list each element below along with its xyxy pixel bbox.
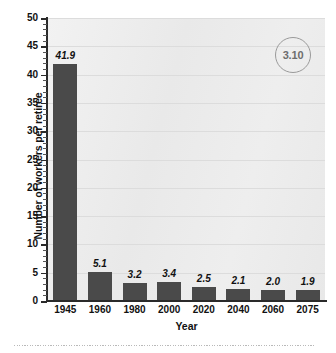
- y-tick-major: [41, 273, 47, 275]
- y-tick-minor: [43, 171, 47, 172]
- gridline: [48, 75, 325, 76]
- status-badge-label: 3.10: [283, 49, 304, 61]
- y-tick-minor: [43, 250, 47, 251]
- y-tick-label: 30: [14, 125, 38, 136]
- y-tick-minor: [43, 29, 47, 30]
- x-tick-label: 2075: [288, 304, 328, 315]
- y-tick-major: [41, 216, 47, 218]
- y-tick-minor: [43, 210, 47, 211]
- bar-value-label: 1.9: [286, 276, 330, 287]
- y-tick-label: 50: [14, 12, 38, 23]
- y-tick-minor: [43, 63, 47, 64]
- y-tick-major: [41, 188, 47, 190]
- y-tick-minor: [43, 137, 47, 138]
- y-tick-label: 25: [14, 154, 38, 165]
- bar: [53, 64, 77, 301]
- y-tick-minor: [43, 278, 47, 279]
- footer-divider: [14, 345, 314, 346]
- y-tick-minor: [43, 24, 47, 25]
- y-tick-minor: [43, 182, 47, 183]
- y-tick-minor: [43, 114, 47, 115]
- x-axis-line: [46, 300, 327, 302]
- y-tick-minor: [43, 120, 47, 121]
- y-tick-minor: [43, 193, 47, 194]
- y-tick-minor: [43, 92, 47, 93]
- y-tick-minor: [43, 261, 47, 262]
- y-tick-major: [41, 18, 47, 20]
- gridline: [48, 160, 325, 161]
- y-tick-minor: [43, 295, 47, 296]
- y-tick-label: 5: [14, 267, 38, 278]
- y-tick-minor: [43, 284, 47, 285]
- y-tick-minor: [43, 256, 47, 257]
- gridline: [48, 188, 325, 189]
- y-tick-label: 0: [14, 295, 38, 306]
- y-tick-minor: [43, 290, 47, 291]
- y-tick-minor: [43, 58, 47, 59]
- y-tick-minor: [43, 227, 47, 228]
- y-tick-label: 20: [14, 182, 38, 193]
- y-tick-label: 40: [14, 69, 38, 80]
- status-badge: 3.10: [275, 37, 311, 73]
- y-tick-minor: [43, 205, 47, 206]
- bar: [88, 272, 112, 301]
- bar: [192, 287, 216, 301]
- y-tick-minor: [43, 148, 47, 149]
- y-tick-minor: [43, 41, 47, 42]
- y-tick-minor: [43, 233, 47, 234]
- y-tick-major: [41, 131, 47, 133]
- gridline: [48, 103, 325, 104]
- y-tick-major: [41, 103, 47, 105]
- y-tick-minor: [43, 165, 47, 166]
- y-tick-minor: [43, 69, 47, 70]
- y-tick-minor: [43, 176, 47, 177]
- y-tick-major: [41, 244, 47, 246]
- y-tick-label: 35: [14, 97, 38, 108]
- gridline: [48, 131, 325, 132]
- y-tick-major: [41, 301, 47, 303]
- bar-value-label: 5.1: [78, 258, 122, 269]
- x-axis-title: Year: [48, 320, 325, 332]
- y-tick-minor: [43, 239, 47, 240]
- y-tick-minor: [43, 143, 47, 144]
- y-tick-minor: [43, 222, 47, 223]
- y-tick-minor: [43, 267, 47, 268]
- bar-value-label: 41.9: [43, 50, 87, 61]
- y-tick-minor: [43, 52, 47, 53]
- gridline: [48, 18, 325, 19]
- y-tick-minor: [43, 154, 47, 155]
- y-tick-label: 10: [14, 238, 38, 249]
- y-tick-major: [41, 46, 47, 48]
- y-tick-label: 45: [14, 40, 38, 51]
- y-tick-major: [41, 75, 47, 77]
- y-tick-minor: [43, 35, 47, 36]
- y-tick-minor: [43, 86, 47, 87]
- bar: [123, 283, 147, 301]
- y-tick-minor: [43, 199, 47, 200]
- gridline: [48, 244, 325, 245]
- y-tick-label: 15: [14, 210, 38, 221]
- y-tick-minor: [43, 126, 47, 127]
- y-tick-minor: [43, 97, 47, 98]
- y-tick-major: [41, 160, 47, 162]
- gridline: [48, 216, 325, 217]
- y-tick-minor: [43, 109, 47, 110]
- chart-figure: Number of workers per retiree 41.95.13.2…: [0, 0, 336, 353]
- y-tick-minor: [43, 80, 47, 81]
- bar: [157, 282, 181, 301]
